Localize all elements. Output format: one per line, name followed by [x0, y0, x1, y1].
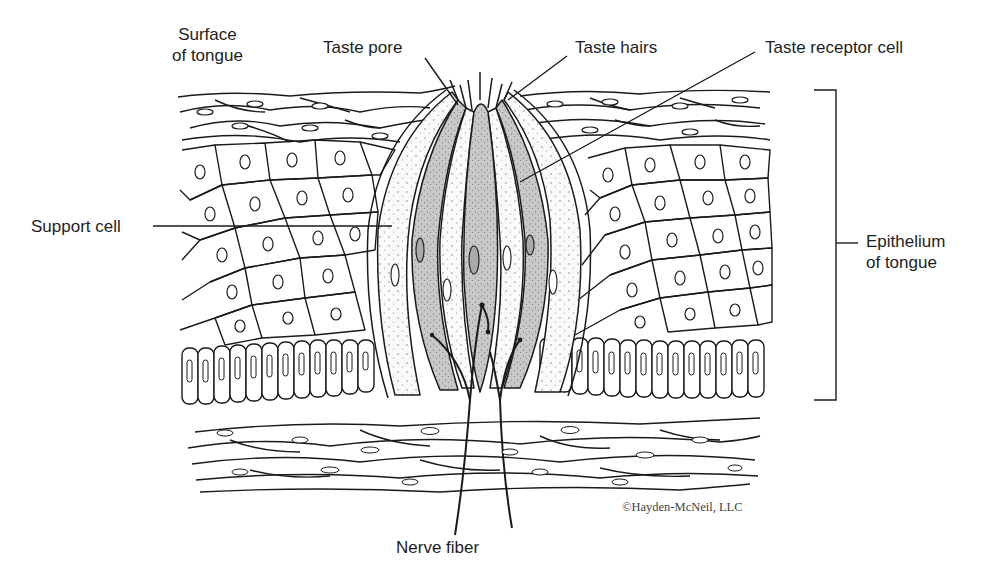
- taste-bud: [367, 90, 590, 398]
- label-taste-hairs: Taste hairs: [575, 37, 657, 58]
- label-surface-of-tongue: Surface of tongue: [172, 24, 243, 66]
- label-epithelium-of-tongue: Epithelium of tongue: [866, 231, 945, 273]
- basal-cells-left: [182, 340, 374, 404]
- leader-taste-pore: [425, 58, 458, 105]
- label-support-cell: Support cell: [31, 216, 121, 237]
- epithelium-bracket: [814, 90, 836, 400]
- taste-bud-diagram: [0, 0, 994, 588]
- leader-taste-receptor-cell: [520, 52, 755, 182]
- label-surface-line1: Surface: [172, 24, 243, 45]
- label-epithelium-line2: of tongue: [866, 252, 945, 273]
- label-taste-pore: Taste pore: [323, 37, 402, 58]
- label-surface-line2: of tongue: [172, 45, 243, 66]
- label-epithelium-line1: Epithelium: [866, 231, 945, 252]
- epithelial-cells-left: [178, 86, 455, 345]
- label-taste-receptor-cell: Taste receptor cell: [765, 37, 903, 58]
- basal-cells-right: [540, 338, 764, 398]
- label-nerve-fiber: Nerve fiber: [396, 537, 479, 558]
- copyright-notice: ©Hayden-McNeil, LLC: [622, 500, 743, 515]
- connective-tissue: [188, 418, 760, 492]
